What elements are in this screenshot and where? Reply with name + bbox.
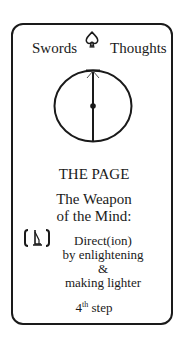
card-description: Direct(ion) by enlightening & making lig… [28,234,178,290]
subtitle-line-1: The Weapon [0,191,188,208]
card-header: Swords Thoughts [0,38,188,58]
description-line: Direct(ion) [28,234,178,248]
domain-label: Thoughts [110,38,167,58]
spade-icon [84,30,100,52]
step-ordinal-suffix: th [82,300,88,309]
description-line: making lighter [28,276,178,290]
step-label: step [92,300,113,315]
card-title: THE PAGE [0,165,188,183]
circle-with-vertical-sword-icon [52,68,134,144]
step-indicator: 4th step [0,300,188,316]
subtitle-line-2: of the Mind: [0,208,188,225]
description-line: & [28,262,178,276]
suit-label: Swords [32,38,77,58]
card-subtitle: The Weapon of the Mind: [0,191,188,225]
description-line: by enlightening [28,248,178,262]
